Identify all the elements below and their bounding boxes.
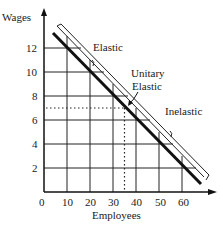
y-tick-label: 10 bbox=[26, 66, 38, 78]
y-tick-label: 4 bbox=[32, 138, 38, 150]
elasticity-bracket bbox=[57, 24, 209, 180]
annotation-inelastic: Inelastic bbox=[165, 105, 202, 117]
axes bbox=[44, 14, 212, 192]
x-tick-label: 50 bbox=[155, 196, 167, 208]
x-tick-label: 40 bbox=[131, 196, 143, 208]
y-tick-label: 2 bbox=[32, 162, 38, 174]
y-tick-label: 12 bbox=[26, 42, 37, 54]
y-axis-title: Wages bbox=[2, 11, 31, 23]
x-tick-label: 0 bbox=[39, 196, 45, 208]
x-tick-label: 30 bbox=[108, 196, 120, 208]
x-axis-title: Employees bbox=[92, 209, 141, 221]
y-tick-label: 6 bbox=[32, 114, 38, 126]
annotation-unitary-line1: Unitary bbox=[131, 67, 165, 79]
y-tick-label: 8 bbox=[32, 90, 38, 102]
x-axis-arrow-icon bbox=[208, 189, 217, 195]
x-tick-label: 60 bbox=[178, 196, 190, 208]
x-tick-label: 10 bbox=[62, 196, 74, 208]
annotation-elastic: Elastic bbox=[93, 41, 123, 53]
x-tick-label: 20 bbox=[85, 196, 97, 208]
y-tick-labels: 12 10 8 6 4 2 bbox=[26, 42, 38, 174]
chart-canvas: Wages Employees Elastic Unitary Elastic … bbox=[0, 0, 220, 237]
annotation-unitary-line2: Elastic bbox=[132, 80, 162, 92]
y-axis-arrow-icon bbox=[41, 8, 47, 16]
x-tick-labels: 0 10 20 30 40 50 60 bbox=[39, 196, 190, 208]
